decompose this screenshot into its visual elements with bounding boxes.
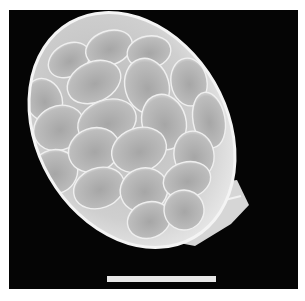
scale-bar xyxy=(107,276,216,282)
specimen-body xyxy=(9,10,298,289)
micrograph-frame xyxy=(9,10,298,289)
